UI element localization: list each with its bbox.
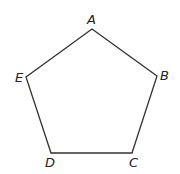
vertex-label-d: D <box>45 155 55 170</box>
vertex-label-c: C <box>129 155 139 170</box>
pentagon-diagram: A B C D E <box>0 0 180 174</box>
vertex-label-e: E <box>15 70 24 85</box>
pentagon-shape <box>26 29 157 153</box>
vertex-label-b: B <box>160 68 169 83</box>
vertex-label-a: A <box>86 12 96 27</box>
